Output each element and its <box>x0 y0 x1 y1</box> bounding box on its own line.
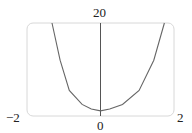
x-min-label: −2 <box>6 111 20 124</box>
x-max-label: 2 <box>177 111 184 124</box>
y-max-label: 20 <box>93 6 106 19</box>
x-origin-label: 0 <box>97 119 104 132</box>
function-curve <box>52 23 164 111</box>
